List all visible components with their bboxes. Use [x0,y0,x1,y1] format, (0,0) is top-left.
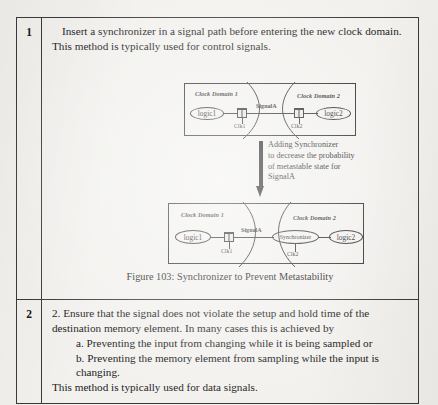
clk1-label: Clk1 [234,123,245,129]
logic1-block: logic1 [190,107,224,120]
method-2-item-b: b. Preventing the memory element from sa… [52,351,408,381]
transition-note-line-1: Adding Synchronizer [268,140,355,151]
flipflop-1 [237,108,247,118]
flipflop-2 [294,108,304,118]
clock-domain-2-label: Clock Domain 2 [297,92,340,99]
clock-domain-1-label: Clock Domain 1 [195,90,238,97]
clk1-label-after: Clk1 [221,248,232,254]
logic2-block-after: logic2 [329,230,363,244]
arrow-head [256,186,264,197]
wire-logic1-to-ff1-after [210,237,225,238]
method-2-item-a: a. Preventing the input from changing wh… [52,336,408,351]
methods-table: 1 Insert a synchronizer in a signal path… [16,17,419,404]
transition-arrow-icon [256,141,265,198]
arrow-stem [259,141,263,188]
synchronizer-block: Synchronizer [272,230,319,244]
figure-103: Clock Domain 1 Clock Domain 2 logic1 Clk… [52,59,408,291]
row-number-cell: 1 [17,18,42,299]
figure-caption: Figure 103: Synchronizer to Prevent Meta… [52,271,408,282]
wire-signala-2 [234,237,274,238]
clock-domain-1-label-after: Clock Domain 1 [181,211,224,218]
method-2-description: 2. Ensure that the signal does not viola… [52,306,408,336]
transition-note-line-2: to decrease the probability [268,151,355,162]
transition-note-line-4: SignalA [268,172,355,183]
flipflop-1-inner-after [225,234,232,241]
clk2-label-after: Clk2 [287,251,298,257]
flipflop-2-inner [295,110,302,117]
clock-domain-2-label-after: Clock Domain 2 [293,214,336,221]
table-row: 2 2. Ensure that the signal does not vio… [17,299,418,403]
flipflop-1-after [224,232,234,242]
signala-label-1: SignalA [256,103,277,109]
flipflop-1-inner [238,110,245,117]
diagram-after-synchronizer: Clock Domain 1 Clock Domain 2 logic1 Clk… [168,203,364,264]
transition-note-line-3: of metastable state for [268,162,355,173]
signala-label-2: SignalA [241,227,262,233]
method-1-description: Insert a synchronizer in a signal path b… [52,24,408,53]
wire-logic1-to-ff1 [223,113,238,114]
row-content-cell: Insert a synchronizer in a signal path b… [42,18,418,299]
row-content-cell: 2. Ensure that the signal does not viola… [42,300,418,403]
wire-signala-1 [247,113,295,114]
transition-note: Adding Synchronizer to decrease the prob… [268,140,355,183]
clk2-label: Clk2 [291,123,302,129]
row-number-cell: 2 [17,300,42,403]
logic1-block-after: logic1 [175,230,211,244]
method-2-conclusion: This method is typically used for data s… [52,380,408,395]
diagram-before-synchronizer: Clock Domain 1 Clock Domain 2 logic1 Clk… [184,83,356,136]
logic2-block: logic2 [316,107,351,120]
table-row: 1 Insert a synchronizer in a signal path… [17,18,418,299]
